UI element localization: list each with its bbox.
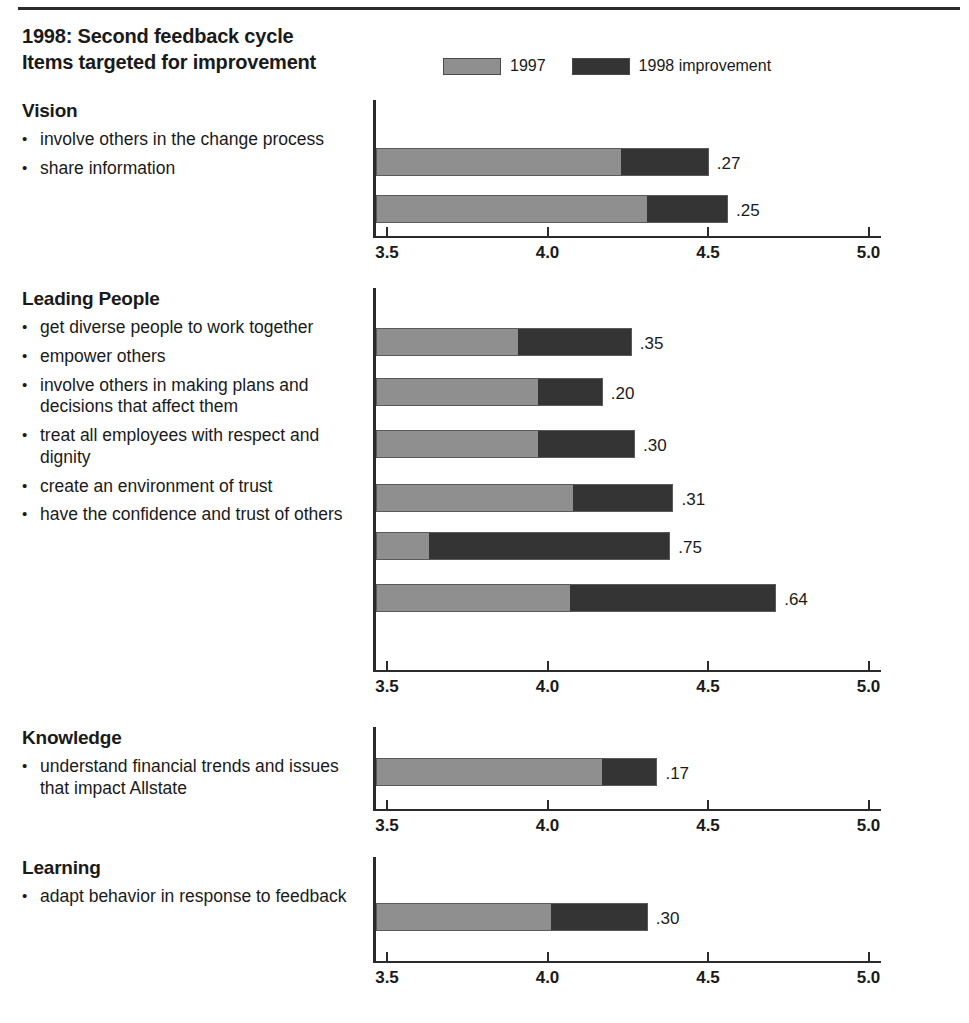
- x-axis-tick: [547, 800, 549, 810]
- x-axis-tick: [868, 952, 870, 962]
- x-axis-tick-label: 3.5: [375, 677, 399, 697]
- stacked-bar: [376, 484, 673, 512]
- x-axis-tick: [707, 661, 709, 671]
- bar-segment-1998-improvement: [647, 196, 727, 222]
- bullet-icon: •: [22, 886, 40, 908]
- bar-segment-1997: [377, 149, 621, 175]
- bar-segment-1998-improvement: [551, 904, 647, 930]
- list-item: •have the confidence and trust of others: [22, 504, 367, 526]
- x-axis-tick-label: 4.0: [536, 816, 560, 836]
- x-axis-line: [373, 809, 881, 811]
- list-item-label: get diverse people to work together: [40, 317, 367, 339]
- bar-segment-1998-improvement: [518, 329, 630, 355]
- bar-value-label: .64: [784, 590, 808, 610]
- list-item: •understand financial trends and issues …: [22, 756, 367, 799]
- bar-value-label: .20: [611, 384, 635, 404]
- list-item: •treat all employees with respect and di…: [22, 425, 367, 468]
- bar-value-label: .30: [656, 909, 680, 929]
- list-item: •create an environment of trust: [22, 476, 367, 498]
- stacked-bar: [376, 148, 709, 176]
- x-axis-tick-label: 5.0: [857, 677, 881, 697]
- bar-value-label: .17: [665, 764, 689, 784]
- x-axis-tick-label: 4.0: [536, 243, 560, 263]
- chart-group: Vision•involve others in the change proc…: [0, 100, 969, 276]
- x-axis-tick-label: 4.5: [696, 968, 720, 988]
- stacked-bar: [376, 903, 648, 931]
- bar-segment-1998-improvement: [573, 485, 673, 511]
- page-title: 1998: Second feedback cycle Items target…: [22, 24, 316, 75]
- group-label-column: Leading People•get diverse people to wor…: [22, 288, 367, 526]
- bullet-icon: •: [22, 756, 40, 799]
- legend-label-1998: 1998 improvement: [639, 57, 772, 75]
- group-title: Leading People: [22, 288, 367, 310]
- bar-segment-1998-improvement: [429, 533, 670, 559]
- bar-value-label: .25: [736, 201, 760, 221]
- legend-swatch-1998-icon: [572, 58, 630, 75]
- bar-segment-1998-improvement: [621, 149, 708, 175]
- x-axis-tick: [707, 800, 709, 810]
- x-axis-tick: [707, 227, 709, 237]
- group-label-column: Vision•involve others in the change proc…: [22, 100, 367, 180]
- list-item: •share information: [22, 158, 367, 180]
- x-axis-tick: [547, 227, 549, 237]
- x-axis-tick: [386, 227, 388, 237]
- stacked-bar: [376, 328, 632, 356]
- bullet-icon: •: [22, 317, 40, 339]
- bullet-icon: •: [22, 346, 40, 368]
- bar-value-label: .35: [640, 334, 664, 354]
- x-axis-tick: [547, 661, 549, 671]
- list-item: •get diverse people to work together: [22, 317, 367, 339]
- bar-value-label: .75: [678, 538, 702, 558]
- bar-segment-1997: [377, 329, 518, 355]
- x-axis-tick: [386, 661, 388, 671]
- chart-group: Learning•adapt behavior in response to f…: [0, 857, 969, 1001]
- bar-segment-1997: [377, 431, 538, 457]
- list-item-label: adapt behavior in response to feedback: [40, 886, 367, 908]
- bar-segment-1997: [377, 585, 570, 611]
- bullet-icon: •: [22, 504, 40, 526]
- x-axis-tick: [707, 952, 709, 962]
- list-item: •adapt behavior in response to feedback: [22, 886, 367, 908]
- bar-value-label: .27: [717, 154, 741, 174]
- bullet-icon: •: [22, 158, 40, 180]
- bar-value-label: .30: [643, 436, 667, 456]
- chart-legend: 1997 1998 improvement: [443, 57, 771, 75]
- list-item: •involve others in making plans and deci…: [22, 375, 367, 418]
- stacked-bar: [376, 430, 635, 458]
- bullet-icon: •: [22, 375, 40, 418]
- x-axis-line: [373, 670, 881, 672]
- list-item-label: empower others: [40, 346, 367, 368]
- list-item-label: involve others in making plans and decis…: [40, 375, 367, 418]
- list-item-label: create an environment of trust: [40, 476, 367, 498]
- bar-segment-1997: [377, 904, 551, 930]
- bar-segment-1998-improvement: [538, 431, 634, 457]
- x-axis-tick-label: 4.5: [696, 677, 720, 697]
- x-axis-tick-label: 4.5: [696, 816, 720, 836]
- group-label-column: Learning•adapt behavior in response to f…: [22, 857, 367, 908]
- title-line-1: 1998: Second feedback cycle: [22, 24, 316, 50]
- top-divider: [18, 7, 960, 10]
- bullet-icon: •: [22, 129, 40, 151]
- plot-area: 3.54.04.55.0.27.25: [373, 100, 888, 276]
- x-axis-tick: [868, 661, 870, 671]
- list-item: •empower others: [22, 346, 367, 368]
- bullet-icon: •: [22, 425, 40, 468]
- x-axis-tick-label: 5.0: [857, 968, 881, 988]
- group-title: Vision: [22, 100, 367, 122]
- x-axis-tick-label: 4.0: [536, 968, 560, 988]
- title-line-2: Items targeted for improvement: [22, 50, 316, 76]
- list-item-label: understand financial trends and issues t…: [40, 756, 367, 799]
- group-title: Learning: [22, 857, 367, 879]
- x-axis-tick: [868, 227, 870, 237]
- bar-segment-1997: [377, 485, 573, 511]
- x-axis-line: [373, 236, 881, 238]
- legend-item-1997: 1997: [443, 57, 546, 75]
- list-item: •involve others in the change process: [22, 129, 367, 151]
- stacked-bar: [376, 758, 657, 786]
- bar-segment-1997: [377, 759, 602, 785]
- x-axis-tick: [386, 800, 388, 810]
- chart-group: Knowledge•understand financial trends an…: [0, 727, 969, 849]
- x-axis-tick-label: 5.0: [857, 816, 881, 836]
- list-item-label: treat all employees with respect and dig…: [40, 425, 367, 468]
- bar-segment-1997: [377, 379, 538, 405]
